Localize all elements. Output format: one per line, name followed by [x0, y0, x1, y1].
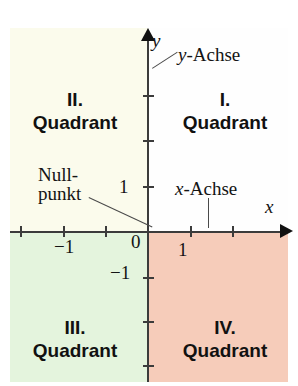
x-axis-line — [10, 231, 282, 233]
quadrant-4-roman: IV. — [160, 316, 290, 339]
quadrant-4-word: Quadrant — [160, 339, 290, 362]
x-axis-tick — [190, 226, 192, 237]
origin-name-label: Null- punkt — [38, 166, 81, 203]
quadrant-3-label: III. Quadrant — [10, 316, 140, 362]
quadrant-1-roman: I. — [160, 88, 290, 111]
y-axis-line — [147, 38, 149, 382]
origin-tick-label: 0 — [131, 231, 141, 253]
y-axis-tick — [143, 186, 154, 188]
x-axis-leader-line — [208, 198, 209, 228]
y-axis-variable-label: y — [152, 30, 160, 52]
x-tick-label-negative-one: −1 — [54, 236, 74, 258]
x-axis-tick — [232, 226, 234, 237]
y-tick-label-negative-one: −1 — [110, 262, 130, 284]
y-axis-tick — [143, 140, 154, 142]
quadrant-3-roman: III. — [10, 316, 140, 339]
y-axis-tick — [143, 277, 154, 279]
quadrant-4-label: IV. Quadrant — [160, 316, 290, 362]
quadrant-1-label: I. Quadrant — [160, 88, 290, 134]
quadrant-2-label: II. Quadrant — [10, 88, 140, 134]
x-axis-variable-label: x — [265, 196, 273, 218]
x-tick-label-one: 1 — [178, 239, 188, 261]
x-axis-tick — [105, 226, 107, 237]
y-axis-tick — [143, 95, 154, 97]
quadrant-3-word: Quadrant — [10, 339, 140, 362]
coordinate-system-diagram: −1 0 1 1 −1 y x y-Achse x-Achse Null- pu… — [0, 0, 298, 386]
y-axis-name-label: y-Achse — [178, 44, 240, 66]
x-axis-arrow-icon — [280, 224, 293, 238]
x-axis-name-label: x-Achse — [175, 178, 237, 200]
y-axis-tick — [143, 321, 154, 323]
origin-label-line-2: punkt — [38, 185, 81, 204]
origin-label-line-1: Null- — [38, 166, 81, 185]
x-axis-tick — [20, 226, 22, 237]
quadrant-1-word: Quadrant — [160, 111, 290, 134]
y-axis-tick — [143, 365, 154, 367]
quadrant-2-roman: II. — [10, 88, 140, 111]
y-tick-label-one: 1 — [119, 176, 129, 198]
quadrant-2-word: Quadrant — [10, 111, 140, 134]
